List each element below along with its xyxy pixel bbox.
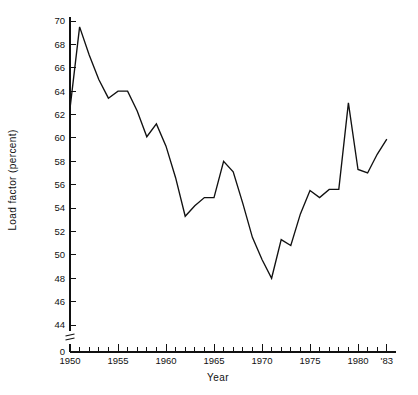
y-tick-label: 52 <box>54 226 65 237</box>
y-tick-label: 62 <box>54 109 65 120</box>
x-tick-label: 1955 <box>107 355 128 366</box>
data-series-load-factor <box>70 27 387 278</box>
y-tick-label: 48 <box>54 273 65 284</box>
y-tick-label: 64 <box>54 86 65 97</box>
y-tick-label: 60 <box>54 132 65 143</box>
axis-break-mark-upper <box>66 334 75 336</box>
x-tick-label: 1965 <box>203 355 224 366</box>
y-tick-label: 58 <box>54 156 65 167</box>
y-axis: 44464850525456586062646668700 <box>54 15 76 357</box>
x-tick-label: '83 <box>381 355 393 366</box>
x-tick-label: 1975 <box>299 355 320 366</box>
y-tick-label: 50 <box>54 249 65 260</box>
x-tick-label: 1980 <box>347 355 368 366</box>
y-tick-label: 66 <box>54 62 65 73</box>
y-tick-label: 46 <box>54 296 65 307</box>
y-tick-label: 68 <box>54 39 65 50</box>
x-axis: 1950195519601965197019751980'83 <box>59 344 395 366</box>
y-tick-label: 44 <box>54 319 65 330</box>
x-tick-label: 1970 <box>251 355 272 366</box>
axis-break-mark-lower <box>66 338 75 340</box>
y-tick-label: 70 <box>54 15 65 26</box>
y-axis-title: Load factor (percent) <box>7 129 18 230</box>
load-factor-line <box>70 27 387 278</box>
y-tick-label: 56 <box>54 179 65 190</box>
chart-figure: 44464850525456586062646668700 1950195519… <box>0 0 418 395</box>
x-axis-title: Year <box>207 372 229 383</box>
x-tick-label: 1950 <box>59 355 80 366</box>
x-tick-label: 1960 <box>155 355 176 366</box>
line-chart-plot: 44464850525456586062646668700 1950195519… <box>0 0 418 395</box>
y-tick-label: 54 <box>54 202 65 213</box>
